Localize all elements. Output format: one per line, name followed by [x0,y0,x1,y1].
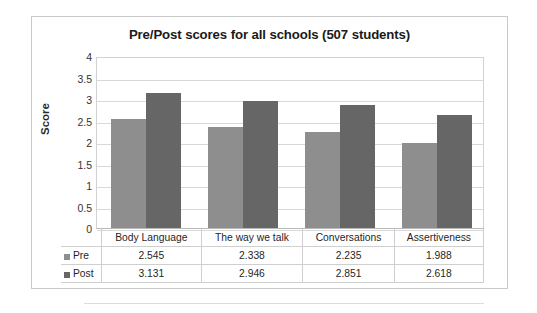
chart-title: Pre/Post scores for all schools (507 stu… [32,27,507,42]
y-axis-tick-label: 2 [62,137,92,149]
bar-group [291,58,388,228]
table-cell-value: 2.851 [303,265,394,283]
legend-swatch-icon [64,272,70,278]
legend-label: Post [73,268,94,279]
table-cell-value: 3.131 [102,265,202,283]
bar-pre-0 [111,119,146,228]
legend-entry-post: Post [61,265,102,283]
y-axis-tick-label: 1 [62,180,92,192]
table-cell-value: 2.338 [201,247,303,265]
table-corner-cell [61,229,102,247]
legend-label: Pre [73,250,89,261]
table-cell-value: 2.618 [394,265,483,283]
table-header-category: Assertiveness [394,229,483,247]
table-header-category: Body Language [102,229,202,247]
legend-swatch-icon [64,254,70,260]
y-axis-tick-label: 2.5 [62,116,92,128]
table-cell-value: 2.946 [201,265,303,283]
y-axis-tick-label: 4 [62,51,92,63]
table-row-post: Post3.1312.9462.8512.618 [61,265,484,283]
bar-post-3 [437,115,472,228]
table-cell-value: 2.545 [102,247,202,265]
y-axis-tick-label: 0.5 [62,202,92,214]
bar-post-0 [146,93,181,228]
bar-pre-2 [305,132,340,228]
table-cell-value: 1.988 [394,247,483,265]
bar-pre-1 [208,127,243,228]
y-axis-tick-label: 3 [62,94,92,106]
table-header-category: Conversations [303,229,394,247]
scan-artifact-line [84,303,484,304]
plot-area [96,57,484,229]
legend-entry-pre: Pre [61,247,102,265]
bar-pre-3 [402,143,437,228]
bar-group [97,58,194,228]
table-row-categories: Body LanguageThe way we talkConversation… [61,229,484,247]
bar-post-1 [243,101,278,228]
bar-group [194,58,291,228]
y-axis-title: Score [39,103,51,135]
bar-group [388,58,485,228]
bar-post-2 [340,105,375,228]
table-cell-value: 2.235 [303,247,394,265]
y-axis-tick-label: 3.5 [62,73,92,85]
y-axis-tick-labels: 43.532.521.510.50 [58,57,92,229]
y-axis-tick-label: 1.5 [62,159,92,171]
table-header-category: The way we talk [201,229,303,247]
table-row-pre: Pre2.5452.3382.2351.988 [61,247,484,265]
data-table: Body LanguageThe way we talkConversation… [61,229,484,283]
chart-frame: Pre/Post scores for all schools (507 stu… [31,16,508,289]
